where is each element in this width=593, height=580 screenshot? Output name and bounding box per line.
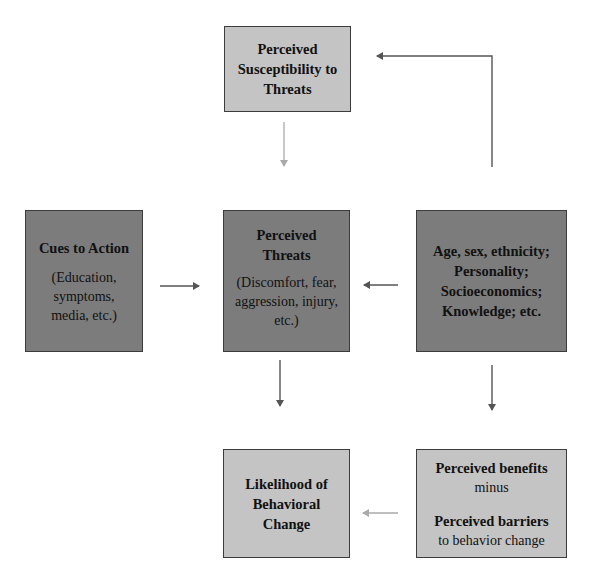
arrows-layer: [0, 0, 593, 580]
arrow-demographics-to-susceptibility: [377, 56, 492, 167]
